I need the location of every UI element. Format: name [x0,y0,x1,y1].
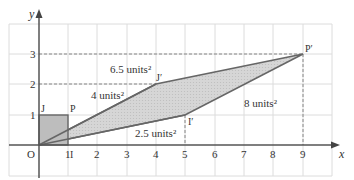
area-label-right: 8 units² [244,97,278,109]
area-label-bottom: 2.5 units² [135,127,177,139]
point-label-i-prime: I′ [188,116,194,127]
x-tick-6: 6 [212,148,218,160]
area-label-top: 6.5 units² [110,63,152,75]
y-axis-label: y [28,7,35,21]
coordinate-diagram: x y O 1 2 3 4 5 6 7 8 9 1 2 3 J P I J′ I… [0,0,354,180]
area-label-left: 4 units² [91,89,125,101]
y-tick-1: 1 [30,109,36,121]
x-tick-2: 2 [94,148,100,160]
y-tick-3: 3 [30,48,36,60]
x-tick-7: 7 [241,148,247,160]
x-axis-label: x [338,147,345,161]
y-tick-2: 2 [30,78,36,90]
point-label-i: I [70,149,73,160]
x-tick-labels: 1 2 3 4 5 6 7 8 9 [65,148,306,160]
point-label-p: P [70,103,76,114]
point-label-j-prime: J′ [156,72,162,83]
x-tick-8: 8 [270,148,276,160]
x-tick-9: 9 [300,148,306,160]
x-tick-4: 4 [153,148,159,160]
x-tick-3: 3 [124,148,130,160]
y-axis-arrow-icon [36,9,43,18]
point-label-p-prime: P′ [305,43,313,54]
y-tick-labels: 1 2 3 [30,48,36,121]
origin-label: O [27,148,35,160]
x-tick-5: 5 [182,148,188,160]
point-label-j: J [41,103,45,114]
